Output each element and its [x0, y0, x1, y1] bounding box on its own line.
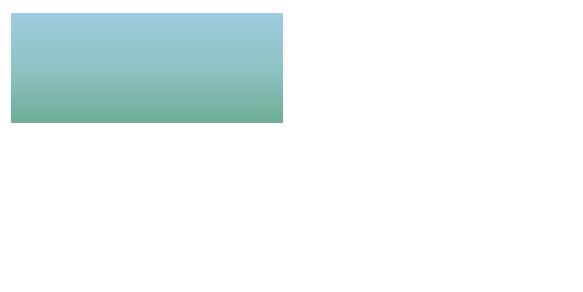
education-pays-chart — [0, 0, 583, 292]
